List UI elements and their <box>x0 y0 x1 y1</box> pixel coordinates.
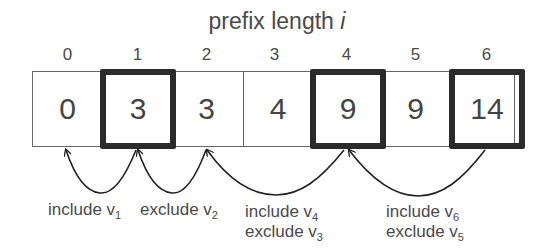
label-text: exclude v <box>386 222 458 241</box>
arrow-include-v6 <box>349 150 485 196</box>
label-text: include v <box>48 200 115 219</box>
arrow-include-v4 <box>207 150 344 195</box>
arrow-include-v1 <box>66 150 136 193</box>
arrow-label: exclude v2 <box>140 200 218 225</box>
arrow-exclude-v2 <box>138 150 206 193</box>
label-subscript: 5 <box>458 231 464 243</box>
label-text: include v <box>386 202 453 221</box>
label-text: include v <box>245 202 312 221</box>
arrow-label: exclude v5 <box>386 222 464 247</box>
label-text: exclude v <box>140 200 212 219</box>
label-text: exclude v <box>245 222 317 241</box>
label-subscript: 2 <box>212 209 218 221</box>
arrow-label: exclude v3 <box>245 222 323 247</box>
arrow-label: include v1 <box>48 200 121 225</box>
label-subscript: 1 <box>115 209 121 221</box>
label-subscript: 3 <box>317 231 323 243</box>
